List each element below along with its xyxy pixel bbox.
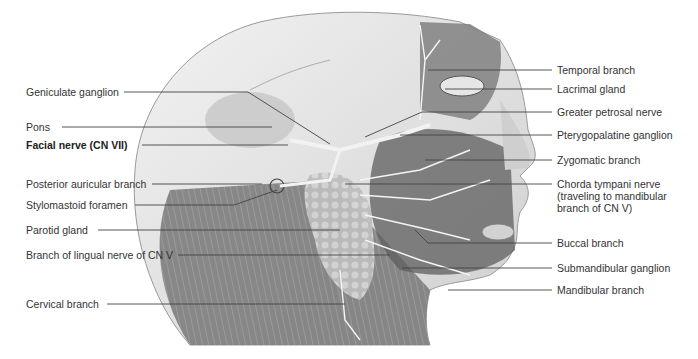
label-zygomatic-branch: Zygomatic branch xyxy=(557,154,640,166)
label-chorda-tympani-nerve: Chorda tympani nerve (traveling to mandi… xyxy=(557,178,667,214)
label-stylomastoid-foramen: Stylomastoid foramen xyxy=(26,199,128,211)
label-greater-petrosal-nerve: Greater petrosal nerve xyxy=(557,106,662,118)
head-silhouette xyxy=(134,12,535,345)
label-temporal-branch: Temporal branch xyxy=(557,64,635,76)
label-lacrimal-gland: Lacrimal gland xyxy=(557,83,625,95)
label-facial-nerve: Facial nerve (CN VII) xyxy=(26,139,128,151)
label-mandibular-branch: Mandibular branch xyxy=(557,284,644,296)
label-pons: Pons xyxy=(26,121,50,133)
label-parotid-gland: Parotid gland xyxy=(26,224,88,236)
facial-nerve-figure: Geniculate ganglion Pons Facial nerve (C… xyxy=(0,0,698,359)
label-branch-lingual-nerve: Branch of lingual nerve of CN V xyxy=(26,249,173,261)
label-cervical-branch: Cervical branch xyxy=(26,298,99,310)
label-pterygopalatine-ganglion: Pterygopalatine ganglion xyxy=(557,129,673,141)
label-geniculate-ganglion: Geniculate ganglion xyxy=(26,86,119,98)
label-posterior-auricular-branch: Posterior auricular branch xyxy=(26,178,146,190)
label-submandibular-ganglion: Submandibular ganglion xyxy=(557,262,670,274)
label-buccal-branch: Buccal branch xyxy=(557,237,624,249)
